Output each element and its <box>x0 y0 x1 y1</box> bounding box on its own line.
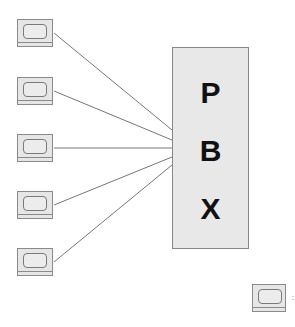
terminal-base <box>18 271 52 272</box>
terminal-4 <box>17 191 53 219</box>
connection-line-5 <box>54 165 172 262</box>
footnote-mark: : <box>292 294 294 301</box>
terminal-screen-icon <box>23 253 47 268</box>
pbx-letter-b: B <box>173 134 248 168</box>
terminal-1 <box>17 19 53 47</box>
terminal-screen-icon <box>23 196 47 211</box>
connection-line-4 <box>54 157 172 205</box>
pbx-box: P B X <box>172 47 249 249</box>
pbx-letter-x: X <box>173 192 248 226</box>
terminal-screen-icon <box>23 82 47 97</box>
terminal-base <box>18 100 52 101</box>
terminal-base <box>18 42 52 43</box>
terminal-base <box>18 157 52 158</box>
terminal-2 <box>17 77 53 105</box>
terminal-screen-icon <box>23 139 47 154</box>
terminal-screen-icon <box>23 24 47 39</box>
connection-lines <box>0 0 295 327</box>
terminal-base <box>253 307 285 308</box>
terminal-base <box>18 214 52 215</box>
terminal-6-unconnected <box>252 284 286 312</box>
terminal-5 <box>17 248 53 276</box>
pbx-letter-p: P <box>173 76 248 110</box>
terminal-screen-icon <box>258 289 282 304</box>
terminal-3 <box>17 134 53 162</box>
